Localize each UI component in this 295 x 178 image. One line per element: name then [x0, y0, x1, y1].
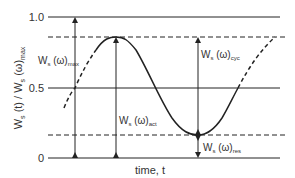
y-tick-0.5: 0.5 — [29, 82, 44, 94]
svg-text:Ws (t) / Ws (ω)max: Ws (t) / Ws (ω)max — [12, 46, 26, 129]
y-axis-label: Ws (t) / Ws (ω)max — [12, 46, 26, 129]
label-max: Ws (ω)max — [38, 55, 79, 67]
y-tick-1.0: 1.0 — [29, 11, 44, 23]
label-cyc: Ws (ω)cyc — [201, 49, 240, 61]
diagram-canvas: Ws (t) / Ws (ω)max 1.0 0.5 0 Ws (ω)max W… — [0, 0, 295, 178]
label-res: Ws (ω)res — [203, 142, 241, 154]
y-tick-0: 0 — [38, 152, 44, 164]
x-axis-label: time, t — [135, 164, 165, 176]
curve-dashed-left — [64, 50, 96, 108]
label-act: Ws (ω)act — [119, 115, 157, 127]
curve-dashed-right — [238, 37, 275, 88]
